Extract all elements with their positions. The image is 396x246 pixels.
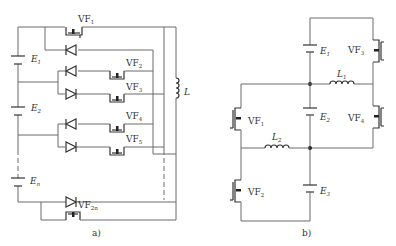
label-en-a: En: [29, 176, 41, 187]
label-l-a: L: [183, 87, 190, 97]
caption-b: b): [302, 228, 311, 238]
label-vf3-a: VF3: [125, 82, 143, 93]
diode-1: [66, 45, 76, 55]
mosfet-vf5: [110, 147, 124, 155]
mosfet-vf2-b: [230, 180, 241, 202]
label-e2-a: E2: [30, 103, 42, 114]
mosfet-vf4: [110, 124, 124, 132]
diode-2n: [66, 197, 76, 207]
label-vf1-a: VF1: [77, 14, 94, 25]
diode-2: [66, 66, 76, 76]
diode-5: [66, 142, 76, 152]
battery-e2-b: [303, 108, 317, 115]
battery-e3-b: [303, 185, 317, 192]
circuit-figure: VF1 E1 VF2: [0, 0, 396, 246]
label-e3-b: E3: [319, 186, 331, 197]
mosfet-vf2n: [66, 212, 80, 220]
diode-3: [66, 89, 76, 99]
label-vf2-a: VF2: [125, 58, 142, 69]
label-vf5-a: VF5: [125, 134, 143, 145]
label-e1-b: E1: [319, 46, 330, 57]
label-vf1-b: VF1: [247, 116, 264, 127]
mosfet-vf1: [66, 27, 82, 38]
label-e2-b: E2: [319, 112, 331, 123]
inductor-l-a: [176, 78, 179, 98]
diode-4: [66, 119, 76, 129]
battery-e1-b: [303, 45, 317, 52]
mosfet-vf2: [110, 71, 124, 79]
label-vf4-a: VF4: [125, 111, 143, 122]
label-e1-a: E1: [30, 54, 41, 65]
figure-b: E1 VF3 L1 E2: [230, 18, 384, 238]
battery-e1-a: [11, 56, 25, 64]
figure-a: VF1 E1 VF2: [11, 14, 190, 238]
inductor-l2: [265, 145, 289, 148]
label-vf2-b: VF2: [247, 187, 264, 198]
battery-en-a: [11, 178, 25, 186]
mosfet-vf4-b: [373, 106, 384, 128]
label-l2: L2: [271, 132, 282, 143]
inductor-l1: [330, 81, 354, 84]
label-l1: L1: [336, 69, 346, 80]
mosfet-vf3-b: [373, 40, 384, 62]
caption-a: a): [92, 228, 101, 238]
label-vf4-b: VF4: [347, 113, 365, 124]
circuit-svg: VF1 E1 VF2: [0, 0, 396, 246]
battery-e2-a: [11, 107, 25, 115]
label-vf3-b: VF3: [347, 45, 365, 56]
mosfet-vf3: [110, 94, 124, 102]
mosfet-vf1-b: [230, 108, 241, 130]
